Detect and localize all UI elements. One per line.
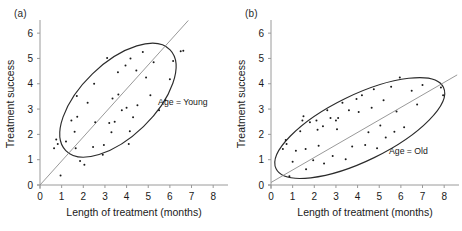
svg-text:4: 4	[27, 78, 33, 89]
svg-text:1: 1	[27, 154, 33, 165]
svg-text:0: 0	[268, 191, 274, 202]
svg-text:7: 7	[420, 191, 426, 202]
svg-text:2: 2	[258, 129, 264, 140]
svg-text:0: 0	[258, 180, 264, 191]
svg-text:0: 0	[27, 180, 33, 191]
svg-text:6: 6	[167, 191, 173, 202]
figure-container: (a) 0123456012345678Length of treatment …	[0, 0, 462, 231]
svg-text:Treatment success: Treatment success	[235, 60, 247, 148]
svg-text:6: 6	[258, 28, 264, 39]
svg-text:6: 6	[27, 28, 33, 39]
svg-text:1: 1	[258, 154, 264, 165]
svg-text:8: 8	[441, 191, 447, 202]
panel-a: (a) 0123456012345678Length of treatment …	[0, 0, 231, 231]
svg-text:7: 7	[189, 191, 195, 202]
svg-text:2: 2	[81, 191, 87, 202]
svg-text:3: 3	[102, 191, 108, 202]
svg-text:Length of treatment (months): Length of treatment (months)	[297, 206, 432, 218]
svg-text:1: 1	[59, 191, 65, 202]
panel-b-plot: 0123456012345678Length of treatment (mon…	[231, 0, 462, 231]
svg-text:1: 1	[290, 191, 296, 202]
svg-text:4: 4	[258, 78, 264, 89]
svg-text:8: 8	[210, 191, 216, 202]
svg-text:Length of treatment (months): Length of treatment (months)	[66, 206, 201, 218]
svg-text:4: 4	[355, 191, 361, 202]
svg-text:5: 5	[145, 191, 151, 202]
svg-text:5: 5	[376, 191, 382, 202]
svg-text:3: 3	[333, 191, 339, 202]
svg-text:5: 5	[258, 53, 264, 64]
svg-text:4: 4	[124, 191, 130, 202]
svg-text:0: 0	[37, 191, 43, 202]
svg-text:6: 6	[398, 191, 404, 202]
svg-text:Age = Young: Age = Young	[158, 97, 208, 107]
panel-a-plot: 0123456012345678Length of treatment (mon…	[0, 0, 231, 231]
svg-text:3: 3	[258, 104, 264, 115]
panel-b: (b) 0123456012345678Length of treatment …	[231, 0, 462, 231]
svg-text:2: 2	[312, 191, 318, 202]
svg-text:5: 5	[27, 53, 33, 64]
svg-text:Age = Old: Age = Old	[389, 146, 428, 156]
svg-text:3: 3	[27, 104, 33, 115]
svg-text:2: 2	[27, 129, 33, 140]
svg-text:Treatment success: Treatment success	[4, 60, 16, 148]
